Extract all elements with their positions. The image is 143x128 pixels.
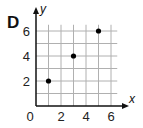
data-point	[46, 78, 51, 83]
data-point	[71, 53, 76, 58]
grid-lines	[36, 25, 117, 106]
x-axis-label: x	[128, 92, 136, 106]
origin-label: 0	[26, 109, 33, 124]
data-point	[96, 28, 101, 33]
y-tick-label: 4	[23, 49, 30, 64]
y-axis-arrow-icon	[33, 7, 39, 14]
x-axis-arrow-icon	[122, 103, 129, 109]
y-tick-label: 2	[23, 74, 30, 89]
scatter-chart: yx2462460	[0, 0, 143, 128]
y-axis-label: y	[39, 2, 47, 16]
y-tick-label: 6	[23, 24, 30, 39]
x-tick-label: 2	[57, 109, 64, 124]
x-tick-label: 6	[107, 109, 114, 124]
x-tick-label: 4	[82, 109, 89, 124]
